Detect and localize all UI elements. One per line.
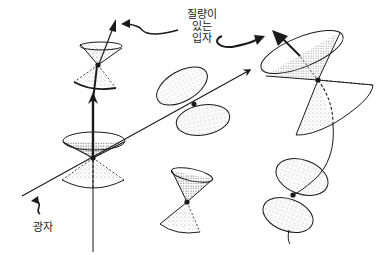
massive-particle-label: 질량이 있는 입자 (185, 9, 219, 45)
light-cone-middle-top (150, 59, 232, 139)
light-cone-left-upper (74, 42, 122, 89)
light-cone-middle-bottom (160, 165, 214, 233)
photon-label: 광자 (28, 222, 58, 234)
massive-particle-label-line3: 입자 (185, 33, 219, 45)
photon-worldline (22, 70, 250, 196)
light-cone-right-bottom (258, 152, 333, 244)
light-cone-right-top (256, 22, 373, 135)
